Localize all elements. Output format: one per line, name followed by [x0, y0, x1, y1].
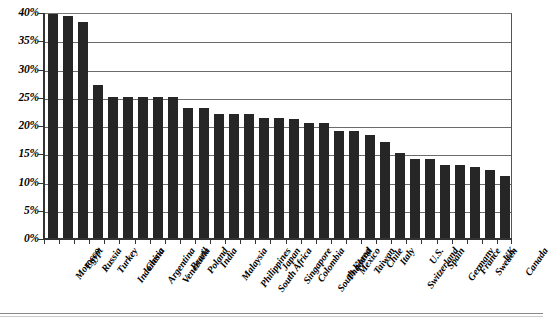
y-tick-label: 15%: [19, 149, 39, 161]
bar: [349, 131, 359, 238]
bar: [244, 114, 254, 238]
bar: [229, 114, 239, 238]
y-tick-label: 20%: [19, 120, 39, 132]
bar: [108, 97, 118, 238]
y-tick-label: 5%: [24, 205, 39, 217]
bar: [500, 176, 510, 238]
bar: [470, 167, 480, 238]
bar: [365, 135, 375, 238]
y-tick-label: 0%: [24, 233, 39, 245]
bar: [78, 22, 88, 238]
footer-rule-secondary: [0, 316, 543, 317]
bar: [259, 118, 269, 238]
bar: [410, 159, 420, 238]
bar: [485, 170, 495, 238]
plot-area: [44, 13, 512, 239]
y-tick-label: 40%: [19, 7, 39, 19]
bar: [304, 123, 314, 238]
bar: [319, 123, 329, 238]
bar: [93, 85, 103, 238]
x-axis-labels: MoroccoEgyptRussiaTurkeyIndonesiaChinaAr…: [44, 244, 512, 304]
y-tick-label: 10%: [19, 177, 39, 189]
x-tick-label: China: [144, 246, 167, 272]
bar: [214, 114, 224, 238]
y-tick-label: 25%: [19, 92, 39, 104]
bar: [123, 97, 133, 238]
bar: [199, 108, 209, 238]
bar: [63, 16, 73, 238]
bar: [455, 165, 465, 238]
y-tick-label: 30%: [19, 64, 39, 76]
bar: [380, 142, 390, 238]
bar: [395, 153, 405, 238]
bar: [274, 118, 284, 238]
y-tick-label: 35%: [19, 36, 39, 48]
bar: [289, 119, 299, 238]
bar: [183, 108, 193, 238]
y-axis-labels: 0%5%10%15%20%25%30%35%40%: [0, 0, 42, 245]
bar: [48, 13, 58, 238]
bars-layer: [45, 14, 511, 238]
bar: [138, 97, 148, 238]
bar: [334, 131, 344, 238]
y-axis-line: [43, 13, 45, 240]
bar: [153, 97, 163, 238]
bar: [425, 159, 435, 238]
bar: [440, 165, 450, 238]
footer-rule: [0, 313, 543, 314]
bar: [168, 97, 178, 238]
x-tick-label: Canada: [524, 246, 550, 278]
